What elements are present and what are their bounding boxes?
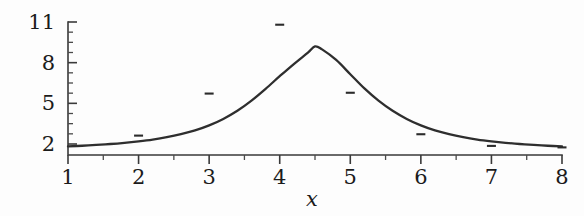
x-tick-label: 5 bbox=[344, 165, 357, 189]
x-tick-label: 3 bbox=[202, 165, 215, 189]
y-tick-label: 8 bbox=[42, 51, 55, 75]
plot-canvas: 25811 12345678 x bbox=[0, 0, 584, 216]
tick-marks-group bbox=[68, 22, 562, 164]
x-tick-label: 4 bbox=[273, 165, 286, 189]
y-tick-label: 11 bbox=[28, 10, 55, 34]
y-tick-label: 2 bbox=[42, 132, 55, 156]
x-axis-tick-labels: 12345678 bbox=[61, 165, 568, 189]
data-curve-line bbox=[68, 46, 562, 146]
x-tick-label: 6 bbox=[414, 165, 427, 189]
data-curve-group bbox=[68, 46, 562, 146]
x-tick-label: 7 bbox=[485, 165, 498, 189]
x-tick-label: 2 bbox=[132, 165, 145, 189]
chart-figure: 25811 12345678 x bbox=[0, 0, 584, 216]
x-tick-label: 1 bbox=[61, 165, 74, 189]
y-tick-label: 5 bbox=[42, 91, 55, 115]
y-axis-tick-labels: 25811 bbox=[28, 10, 55, 156]
x-tick-label: 8 bbox=[555, 165, 568, 189]
x-axis-title: x bbox=[306, 187, 318, 211]
